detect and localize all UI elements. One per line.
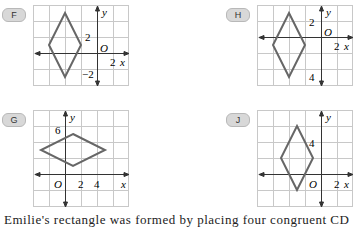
svg-text:y: y — [69, 111, 75, 123]
tick-label: 2 — [85, 31, 91, 43]
x-axis-label: x — [119, 56, 125, 68]
graph-g: y 6 O 2 4 x — [33, 110, 129, 207]
svg-text:4: 4 — [309, 137, 315, 149]
option-badge-h[interactable]: H — [226, 8, 250, 22]
y-axis-label: y — [101, 6, 107, 18]
svg-text:x: x — [343, 40, 349, 52]
option-badge-f[interactable]: F — [2, 8, 26, 22]
option-badge-j[interactable]: J — [226, 113, 250, 127]
svg-text:2: 2 — [309, 16, 315, 28]
origin-label: O — [100, 42, 108, 54]
graph-j: y 4 O 2 x — [257, 110, 353, 207]
svg-text:2: 2 — [334, 178, 340, 190]
svg-text:4: 4 — [309, 71, 315, 83]
svg-text:4: 4 — [94, 178, 100, 190]
option-badge-g[interactable]: G — [2, 113, 26, 127]
svg-text:O: O — [54, 178, 62, 190]
svg-text:y: y — [325, 6, 331, 18]
svg-text:O: O — [324, 26, 332, 38]
graph-f: y 2 O 2 x −2 — [33, 5, 129, 86]
tick-label: 2 — [110, 56, 116, 68]
svg-text:2: 2 — [334, 40, 340, 52]
svg-text:6: 6 — [55, 124, 61, 136]
svg-text:O: O — [309, 178, 317, 190]
svg-text:y: y — [325, 111, 331, 123]
tick-label: −2 — [82, 68, 94, 80]
graph-h: y 2 O 2 x 4 — [257, 5, 353, 86]
svg-text:x: x — [343, 178, 349, 190]
svg-text:2: 2 — [78, 178, 84, 190]
svg-text:x: x — [120, 178, 126, 190]
question-text: Emilie's rectangle was formed by placing… — [4, 212, 349, 228]
